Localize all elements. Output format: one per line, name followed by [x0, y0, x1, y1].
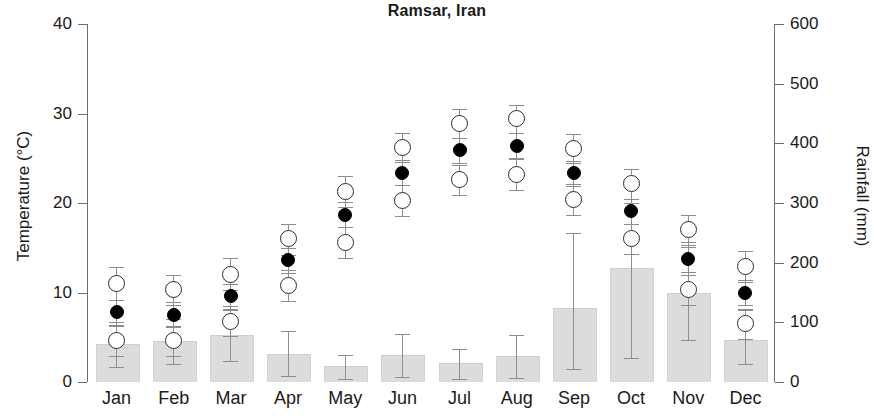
mean-temp-marker — [110, 305, 124, 319]
mean-temp-whisker-cap — [566, 161, 581, 162]
rainfall-whisker-cap — [338, 355, 353, 356]
min-temp-whisker-cap — [624, 224, 639, 225]
rainfall-whisker-cap — [223, 361, 238, 362]
max-temp-marker — [337, 183, 354, 200]
y-axis-left-tick — [78, 382, 87, 383]
mean-temp-whisker-cap — [509, 133, 524, 134]
mean-temp-marker — [567, 166, 581, 180]
rainfall-whisker-cap — [166, 364, 181, 365]
mean-temp-whisker-cap — [395, 160, 410, 161]
mean-temp-marker — [624, 204, 638, 218]
min-temp-whisker-cap — [681, 275, 696, 276]
month-column — [431, 24, 488, 382]
rainfall-whisker-cap — [624, 358, 639, 359]
rainfall-whisker-cap — [452, 379, 467, 380]
mean-temp-marker — [681, 252, 695, 266]
rainfall-bar — [96, 344, 140, 382]
rainfall-whisker — [459, 349, 460, 379]
y-axis-left-tick — [78, 203, 87, 204]
rainfall-whisker — [345, 355, 346, 379]
min-temp-marker — [394, 192, 411, 209]
min-temp-whisker-cap — [281, 301, 296, 302]
rainfall-whisker-cap — [566, 369, 581, 370]
x-axis-tick-label: Jul — [431, 388, 488, 409]
rainfall-bar — [210, 335, 254, 382]
x-axis-tick-label: Jan — [88, 388, 145, 409]
max-temp-whisker-cap — [338, 176, 353, 177]
rainfall-bar — [724, 340, 768, 382]
mean-temp-whisker-cap — [681, 272, 696, 273]
min-temp-marker — [623, 230, 640, 247]
mean-temp-whisker-cap — [681, 247, 696, 248]
min-temp-whisker-cap — [566, 184, 581, 185]
rainfall-whisker-cap — [509, 378, 524, 379]
month-column — [145, 24, 202, 382]
min-temp-marker — [451, 171, 468, 188]
rainfall-whisker-cap — [452, 349, 467, 350]
mean-temp-marker — [167, 308, 181, 322]
max-temp-whisker-cap — [624, 169, 639, 170]
x-axis-tick-label: Sep — [545, 388, 602, 409]
x-axis-tick-label: Apr — [260, 388, 317, 409]
rainfall-whisker — [288, 331, 289, 376]
month-column — [545, 24, 602, 382]
y-axis-right-tick-label: 200 — [790, 254, 850, 271]
min-temp-marker — [565, 191, 582, 208]
mean-temp-whisker-cap — [223, 284, 238, 285]
min-temp-whisker-cap — [624, 254, 639, 255]
chart-title: Ramsar, Iran — [0, 2, 874, 20]
min-temp-marker — [337, 234, 354, 251]
max-temp-marker — [508, 110, 525, 127]
rainfall-whisker-cap — [281, 376, 296, 377]
y-axis-left-tick-label: 10 — [26, 284, 72, 301]
max-temp-marker — [680, 221, 697, 238]
max-temp-whisker-cap — [566, 134, 581, 135]
y-axis-right-tick — [775, 84, 784, 85]
rainfall-bar — [553, 308, 597, 382]
month-column — [88, 24, 145, 382]
min-temp-whisker-cap — [738, 309, 753, 310]
climate-chart: Ramsar, Iran Temperature (°C) Rainfall (… — [0, 0, 874, 420]
rainfall-bar — [667, 293, 711, 382]
rainfall-whisker-cap — [681, 340, 696, 341]
min-temp-marker — [680, 281, 697, 298]
max-temp-marker — [280, 230, 297, 247]
max-temp-whisker-cap — [109, 267, 124, 268]
max-temp-marker — [565, 140, 582, 157]
mean-temp-marker — [453, 143, 467, 157]
min-temp-whisker-cap — [566, 215, 581, 216]
mean-temp-whisker-cap — [281, 248, 296, 249]
min-temp-whisker-cap — [338, 227, 353, 228]
x-axis-tick-label: Aug — [488, 388, 545, 409]
max-temp-whisker-cap — [166, 275, 181, 276]
mean-temp-whisker-cap — [452, 138, 467, 139]
y-axis-right-tick — [775, 203, 784, 204]
min-temp-whisker-cap — [452, 165, 467, 166]
min-temp-whisker-cap — [681, 305, 696, 306]
y-axis-left-tick — [78, 293, 87, 294]
y-axis-right-tick — [775, 322, 784, 323]
rainfall-whisker — [516, 335, 517, 378]
rainfall-whisker-cap — [509, 335, 524, 336]
y-axis-right-tick — [775, 143, 784, 144]
month-column — [603, 24, 660, 382]
y-axis-right-tick-label: 400 — [790, 134, 850, 151]
max-temp-marker — [451, 115, 468, 132]
rainfall-whisker-cap — [566, 233, 581, 234]
min-temp-marker — [280, 277, 297, 294]
x-axis-tick-label: Oct — [603, 388, 660, 409]
rainfall-whisker-cap — [395, 334, 410, 335]
y-axis-right-tick-label: 300 — [790, 194, 850, 211]
y-axis-right-tick-label: 500 — [790, 75, 850, 92]
plot-area — [88, 24, 774, 382]
rainfall-whisker-cap — [395, 377, 410, 378]
mean-temp-whisker-cap — [109, 300, 124, 301]
max-temp-whisker-cap — [281, 224, 296, 225]
y-axis-left-tick-label: 20 — [26, 194, 72, 211]
min-temp-marker — [737, 315, 754, 332]
x-axis-tick-label: Dec — [717, 388, 774, 409]
month-column — [488, 24, 545, 382]
mean-temp-marker — [281, 253, 295, 267]
x-axis-tick-label: Mar — [202, 388, 259, 409]
x-axis-tick-label: Jun — [374, 388, 431, 409]
